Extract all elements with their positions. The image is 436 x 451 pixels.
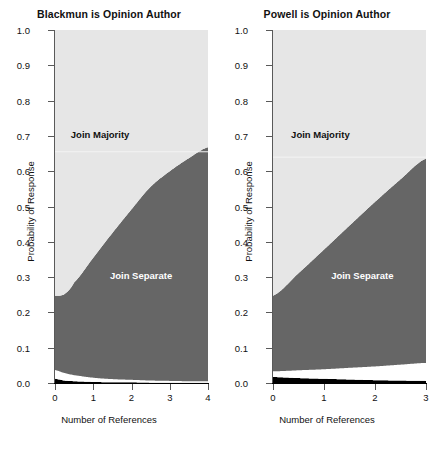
y-tick-mark [266,348,272,349]
x-axis-line [272,383,427,384]
x-tick-mark [170,384,171,390]
x-tick-label: 1 [321,392,326,403]
y-tick-mark [48,383,54,384]
y-tick-mark [48,171,54,172]
y-tick-mark [266,242,272,243]
region-label-join-majority: Join Majority [291,129,350,140]
x-tick-label: 3 [167,392,172,403]
region-label-join-majority: Join Majority [71,129,130,140]
y-axis-line [272,30,273,384]
y-axis-line [54,30,55,384]
y-tick-label: 0.1 [235,342,248,353]
y-tick-mark [266,30,272,31]
y-tick-mark [266,171,272,172]
y-tick-mark [48,136,54,137]
x-tick-label: 2 [372,392,377,403]
y-tick-mark [48,207,54,208]
x-tick-label: 0 [52,392,57,403]
panel-title: Blackmun is Opinion Author [0,8,218,20]
plot-area: Join MajorityJoin Separate [273,30,426,383]
x-tick-mark [375,384,376,390]
x-tick-label: 0 [270,392,275,403]
x-tick-mark [426,384,427,390]
x-tick-label: 3 [423,392,428,403]
y-tick-mark [266,65,272,66]
x-tick-mark [273,384,274,390]
y-tick-label: 0.9 [235,60,248,71]
y-tick-mark [266,277,272,278]
x-tick-label: 1 [91,392,96,403]
stacked-area-chart-figure: Blackmun is Opinion AuthorJoin MajorityJ… [0,0,436,451]
x-axis-title: Number of References [218,414,436,425]
y-axis-title: Probability of Response [25,102,36,322]
y-tick-label: 1.0 [235,25,248,36]
x-tick-mark [132,384,133,390]
x-tick-label: 4 [205,392,210,403]
y-tick-mark [48,30,54,31]
y-tick-mark [266,136,272,137]
plot-area: Join MajorityJoin Separate [55,30,208,383]
chart-panel-1: Blackmun is Opinion AuthorJoin MajorityJ… [0,0,218,451]
x-tick-mark [55,384,56,390]
y-tick-label: 0.0 [235,378,248,389]
stacked-area-plot [273,30,426,383]
y-tick-mark [48,65,54,66]
y-tick-mark [48,348,54,349]
y-tick-mark [266,101,272,102]
x-tick-mark [208,384,209,390]
y-tick-label: 0.0 [17,378,30,389]
y-tick-mark [48,101,54,102]
y-tick-mark [48,312,54,313]
y-tick-label: 0.9 [17,60,30,71]
y-tick-label: 0.1 [17,342,30,353]
x-tick-mark [324,384,325,390]
chart-panel-2: Powell is Opinion AuthorJoin MajorityJoi… [218,0,436,451]
x-tick-mark [93,384,94,390]
y-axis-title: Probability of Response [243,102,254,322]
stacked-area-plot [55,30,208,383]
x-tick-label: 2 [129,392,134,403]
y-tick-mark [266,383,272,384]
y-tick-mark [48,277,54,278]
x-axis-title: Number of References [0,414,218,425]
panel-title: Powell is Opinion Author [218,8,436,20]
region-label-join-separate: Join Separate [110,270,172,281]
y-tick-label: 1.0 [17,25,30,36]
y-tick-mark [266,207,272,208]
y-tick-mark [48,242,54,243]
region-label-join-separate: Join Separate [331,270,393,281]
y-tick-mark [266,312,272,313]
